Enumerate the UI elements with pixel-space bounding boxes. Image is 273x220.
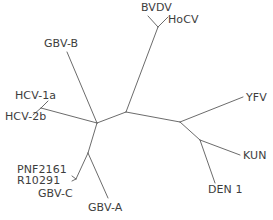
taxon-label-gbv_c: GBV-C [38, 188, 73, 199]
taxon-label-gbv_a: GBV-A [88, 202, 122, 213]
tree-branch [72, 179, 76, 181]
taxon-label-bvdv: BVDV [141, 2, 172, 13]
tree-branch [67, 52, 97, 123]
taxon-label-hcv_1a: HCV-1a [15, 90, 56, 101]
taxon-label-r10291: R10291 [17, 175, 60, 186]
taxon-label-den_1: DEN 1 [208, 184, 243, 195]
tree-branch [72, 176, 76, 179]
tree-branch [97, 112, 126, 123]
tree-branch [88, 123, 97, 153]
taxon-label-gbv_b: GBV-B [44, 38, 78, 49]
taxon-label-hocv: HoCV [168, 14, 199, 25]
tree-branch [158, 17, 168, 27]
tree-branch [200, 140, 215, 183]
tree-branch [148, 16, 158, 27]
tree-branch [180, 97, 243, 122]
phylogenetic-tree-figure: BVDVHoCVGBV-BHCV-1aHCV-2bYFVKUNPNF2161R1… [0, 0, 273, 220]
tree-branch [41, 101, 48, 108]
taxon-label-hcv_2b: HCV-2b [5, 111, 46, 122]
tree-branch [200, 140, 240, 155]
tree-branch [76, 153, 88, 179]
tree-branch [126, 27, 158, 112]
taxon-label-kun: KUN [243, 150, 267, 161]
tree-branch [180, 122, 200, 140]
tree-branch [126, 112, 180, 122]
tree-branch [88, 153, 108, 198]
taxon-label-yfv: YFV [246, 92, 267, 103]
tree-branch [41, 108, 97, 123]
